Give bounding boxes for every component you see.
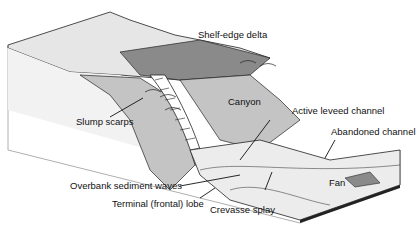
label-active-leveed-channel: Active leveed channel: [292, 106, 384, 116]
label-crevasse-splay: Crevasse splay: [210, 205, 275, 215]
label-canyon: Canyon: [228, 97, 261, 107]
label-shelf-edge-delta: Shelf-edge delta: [198, 30, 267, 40]
label-fan: Fan: [329, 178, 345, 188]
label-abandoned-channel: Abandoned channel: [331, 127, 416, 137]
label-overbank-sediment-waves: Overbank sediment waves: [70, 181, 182, 191]
label-terminal-lobe: Terminal (frontal) lobe: [112, 199, 204, 209]
label-slump-scarps: Slump scarps: [76, 117, 134, 127]
diagram-canvas: Shelf-edge delta Canyon Slump scarps Act…: [0, 0, 419, 233]
